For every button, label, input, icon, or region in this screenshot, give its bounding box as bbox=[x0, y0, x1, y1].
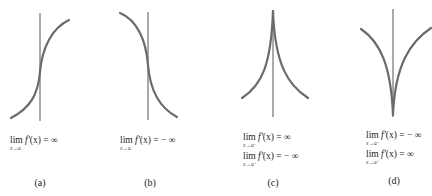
limit-value: − ∞ bbox=[161, 135, 176, 145]
limit-value: ∞ bbox=[284, 132, 291, 142]
relation: = bbox=[41, 135, 51, 145]
limit-value: − ∞ bbox=[407, 130, 422, 140]
lim-subscript: x→a bbox=[120, 146, 131, 152]
function-arg: (x) bbox=[140, 135, 151, 145]
limit-value: ∞ bbox=[407, 149, 414, 159]
limit-value: − ∞ bbox=[284, 151, 299, 161]
relation: = bbox=[397, 130, 407, 140]
panel-b-graph bbox=[120, 12, 177, 120]
lim-label: lim bbox=[366, 130, 379, 140]
panel-d-left-curve bbox=[361, 29, 393, 115]
lim-subscript: x→a⁺ bbox=[366, 160, 380, 166]
panel-b-caption: (b) bbox=[135, 177, 165, 188]
panel-c-right-curve bbox=[273, 11, 308, 98]
vertical-tangent-figure: limx→a f′(x) = ∞ limx→a f′(x) = − ∞ limx… bbox=[0, 0, 432, 196]
panel-c-limit-2: limx→a⁺ f′(x) = − ∞ bbox=[243, 152, 298, 162]
panel-d-right-curve bbox=[393, 28, 431, 115]
panel-c-graph bbox=[242, 10, 308, 117]
panel-c-left-curve bbox=[242, 11, 273, 98]
panel-d-graph bbox=[361, 9, 431, 117]
relation: = bbox=[274, 151, 284, 161]
relation: = bbox=[397, 149, 407, 159]
lim-subscript: x→a⁻ bbox=[366, 141, 380, 147]
function-arg: (x) bbox=[263, 132, 274, 142]
lim-subscript: x→a⁺ bbox=[243, 162, 257, 168]
function-arg: (x) bbox=[30, 135, 41, 145]
panel-d-limit-1: limx→a⁻ f′(x) = − ∞ bbox=[366, 131, 421, 141]
lim-label: lim bbox=[243, 151, 256, 161]
function-arg: (x) bbox=[386, 130, 397, 140]
panel-b-limit-1: limx→a f′(x) = − ∞ bbox=[120, 136, 175, 146]
relation: = bbox=[274, 132, 284, 142]
lim-label: lim bbox=[243, 132, 256, 142]
panel-a-graph bbox=[11, 13, 69, 121]
panel-d-caption: (d) bbox=[379, 175, 409, 186]
function-arg: (x) bbox=[263, 151, 274, 161]
curves-canvas bbox=[0, 0, 432, 196]
lim-label: lim bbox=[10, 135, 23, 145]
panel-c-limit-1: limx→a⁻ f′(x) = ∞ bbox=[243, 133, 291, 143]
function-arg: (x) bbox=[386, 149, 397, 159]
limit-value: ∞ bbox=[51, 135, 58, 145]
panel-d-limit-2: limx→a⁺ f′(x) = ∞ bbox=[366, 150, 414, 160]
panel-c-caption: (c) bbox=[258, 177, 288, 188]
panel-a-caption: (a) bbox=[25, 177, 55, 188]
lim-subscript: x→a bbox=[10, 146, 21, 152]
lim-label: lim bbox=[120, 135, 133, 145]
relation: = bbox=[151, 135, 161, 145]
lim-label: lim bbox=[366, 149, 379, 159]
lim-subscript: x→a⁻ bbox=[243, 143, 257, 149]
panel-a-limit-1: limx→a f′(x) = ∞ bbox=[10, 136, 58, 146]
